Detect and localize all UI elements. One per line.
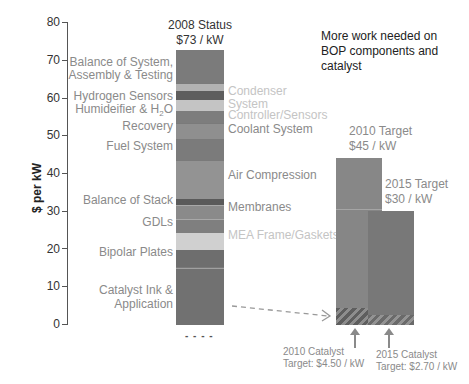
seg-coolant — [176, 124, 224, 139]
label-fuel-system: Fuel System — [40, 140, 173, 153]
seg-membranes — [176, 205, 224, 220]
bar-title-2010: 2010 Target $45 / kW — [349, 124, 412, 154]
tick-50 — [62, 135, 67, 136]
seg-catalyst-ink — [176, 268, 224, 325]
tick-label-80: 80 — [36, 15, 60, 29]
seg-air-compression — [176, 161, 224, 199]
bar-2010-upper-segment — [336, 158, 382, 210]
label-membranes: Membranes — [228, 201, 291, 214]
seg-balance-of-system — [176, 50, 224, 83]
label-humidifier: Humideifier & H2O Recovery — [40, 103, 173, 133]
tick-label-0: 0 — [36, 317, 60, 331]
bar-2008-status — [176, 50, 224, 324]
bar-2015-target — [368, 211, 414, 325]
bar-title-2008: 2008 Status $73 / kW — [160, 18, 240, 48]
tick-80 — [62, 22, 67, 23]
seg-condenser — [176, 84, 224, 91]
label-air-compression: Air Compression — [228, 169, 317, 182]
seg-mea-frame — [176, 233, 224, 250]
label-bipolar-plates: Bipolar Plates — [40, 246, 173, 259]
seg-fuel-system — [176, 140, 224, 160]
seg-bipolar-plates — [176, 250, 224, 267]
label-catalyst-ink: Catalyst Ink & Application — [40, 283, 173, 311]
arrow-up-2015-icon — [383, 327, 395, 349]
label-2010-catalyst-target: 2010 Catalyst Target: $4.50 / kW — [283, 346, 364, 370]
tick-0 — [62, 324, 67, 325]
bar-title-2008-line1: 2008 Status — [160, 18, 240, 33]
label-balance-of-stack: Balance of Stack — [40, 194, 173, 207]
bar-title-2015: 2015 Target $30 / kW — [385, 177, 448, 207]
label-balance-of-system: Balance of System, Assembly & Testing — [40, 56, 173, 82]
tick-label-40: 40 — [36, 166, 60, 180]
tick-40 — [62, 173, 67, 174]
label-controller-sensors: Controller/Sensors — [228, 109, 327, 122]
seg-gdls — [176, 220, 224, 233]
legend-dash: - - - - — [185, 330, 214, 341]
seg-hydrogen-sensors — [176, 91, 224, 100]
label-mea-frame: MEA Frame/Gaskets — [228, 229, 339, 242]
seg-humidifier — [176, 111, 224, 123]
bar-2015-catalyst-segment — [368, 315, 414, 325]
dashed-arrow-icon — [230, 300, 338, 324]
label-gdls: GDLs — [40, 216, 173, 229]
label-coolant-system: Coolant System — [228, 123, 313, 136]
annotation-note: More work needed on BOP components and c… — [321, 29, 438, 74]
tick-30 — [62, 211, 67, 212]
seg-controller-sensors — [176, 100, 224, 111]
bar-title-2008-line2: $73 / kW — [160, 33, 240, 48]
label-2015-catalyst-target: 2015 Catalyst Target: $2.70 / kW — [376, 349, 457, 373]
